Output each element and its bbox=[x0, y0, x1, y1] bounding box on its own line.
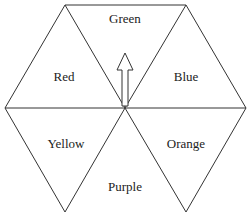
label-yellow: Yellow bbox=[48, 137, 85, 150]
edge-upper-right-outer bbox=[186, 5, 246, 108]
label-blue: Blue bbox=[174, 70, 199, 83]
edge-lower-left-inner bbox=[65, 108, 125, 212]
label-red: Red bbox=[54, 70, 75, 83]
edge-lower-right-inner bbox=[125, 108, 186, 212]
edge-lower-right-outer bbox=[186, 108, 246, 212]
label-orange: Orange bbox=[167, 137, 205, 150]
label-purple: Purple bbox=[108, 180, 142, 193]
edge-upper-left-outer bbox=[5, 5, 65, 108]
label-green: Green bbox=[109, 12, 141, 25]
edge-lower-left-outer bbox=[5, 108, 65, 212]
triangle-color-diagram: Green Red Blue Yellow Orange Purple bbox=[0, 0, 251, 216]
